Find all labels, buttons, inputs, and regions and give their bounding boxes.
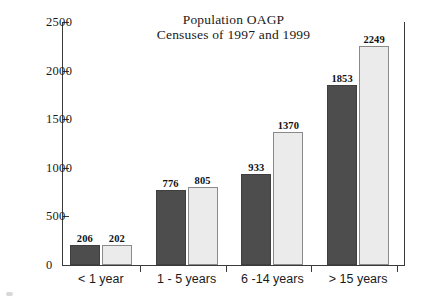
bar: 206 xyxy=(70,245,100,265)
bar: 776 xyxy=(156,190,186,265)
x-axis-baseline xyxy=(62,265,405,266)
x-axis-category-label: > 15 years xyxy=(329,272,388,286)
bar-value-label: 202 xyxy=(109,233,125,244)
x-axis-category-label: 6 -14 years xyxy=(241,272,304,286)
x-axis-category-label: < 1 year xyxy=(78,272,124,286)
bar-value-label: 2249 xyxy=(363,34,384,45)
y-axis-tick xyxy=(63,265,69,266)
plot-area: 05001000150020002500 2062027768059331370… xyxy=(62,22,405,265)
bar: 1370 xyxy=(273,132,303,265)
bar-value-label: 933 xyxy=(248,162,264,173)
y-axis-tick-label: 2000 xyxy=(46,63,54,78)
chart-screenshot: Population OAGP Censuses of 1997 and 199… xyxy=(0,0,425,303)
bar-value-label: 805 xyxy=(195,175,211,186)
bar: 933 xyxy=(241,174,271,265)
x-axis-category-label: 1 - 5 years xyxy=(157,272,216,286)
right-axis-line xyxy=(404,22,405,266)
x-axis-separator-tick xyxy=(226,266,227,272)
y-axis-tick-label: 500 xyxy=(46,209,54,224)
bar: 202 xyxy=(102,245,132,265)
y-axis-tick-label: 2500 xyxy=(46,15,54,30)
bar-value-label: 1370 xyxy=(278,120,299,131)
bar: 2249 xyxy=(359,46,389,265)
bar-value-label: 1853 xyxy=(331,73,352,84)
bar-value-label: 206 xyxy=(77,233,93,244)
bar-value-label: 776 xyxy=(163,178,179,189)
x-axis-separator-tick xyxy=(397,266,398,272)
x-axis-separator-tick xyxy=(311,266,312,272)
scan-artifact xyxy=(6,292,13,296)
y-axis-tick-label: 0 xyxy=(46,258,54,273)
x-axis-separator-tick xyxy=(140,266,141,272)
y-axis-line xyxy=(62,22,63,266)
bar: 1853 xyxy=(327,85,357,265)
bar: 805 xyxy=(188,187,218,265)
y-axis-tick-label: 1500 xyxy=(46,112,54,127)
y-axis-tick-label: 1000 xyxy=(46,160,54,175)
